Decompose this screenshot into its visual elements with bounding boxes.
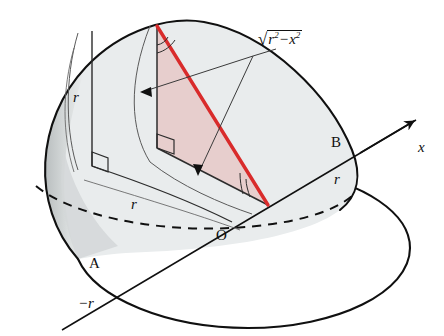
hemisphere-diagram [0,0,444,336]
radical-sign: √ [258,30,267,49]
radical-minus: − [279,31,289,47]
point-b-label: B [331,135,341,150]
x-axis-arrow [360,121,414,153]
coord-negative-r-label: −r [78,296,94,311]
point-a-label: A [89,256,100,271]
height-expression-label: √r2−x2 [258,30,302,47]
figure-root: √r2−x2 x B r O A −r r r [0,0,444,336]
axis-x-label: x [418,140,425,155]
coord-positive-r-label: r [334,172,340,187]
radical-exp-1: 2 [274,30,279,40]
radius-horizontal-label: r [131,197,137,212]
radical-base-2: x [289,31,296,47]
radical-exp-2: 2 [296,30,301,40]
radius-vertical-label: r [73,90,79,105]
point-o-label: O [216,228,227,243]
